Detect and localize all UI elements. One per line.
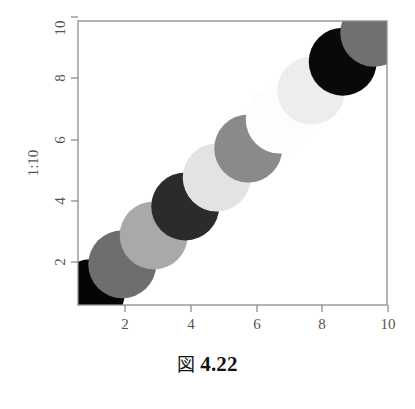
figure-container: 2 4 6 8 10 2 4 6 8 10 Index 1:10 図4.22 <box>0 0 415 409</box>
x-tick-label-6: 6 <box>253 316 261 332</box>
y-tick-label-2: 2 <box>52 258 68 266</box>
caption-figure-number: 4.22 <box>200 352 238 377</box>
x-tick-label-8: 8 <box>318 316 326 332</box>
scatter-plot: 2 4 6 8 10 2 4 6 8 10 Index 1:10 <box>0 0 415 340</box>
x-axis-ticks <box>125 305 388 312</box>
y-tick-label-8: 8 <box>52 74 68 82</box>
data-point-10 <box>340 0 408 67</box>
x-tick-label-4: 4 <box>187 316 195 332</box>
x-axis-tick-labels: 2 4 6 8 10 <box>121 316 395 332</box>
x-tick-label-10: 10 <box>381 316 396 332</box>
x-tick-label-2: 2 <box>121 316 129 332</box>
caption-figure-mark: 図 <box>177 350 195 376</box>
y-axis-ticks <box>71 17 78 262</box>
y-tick-label-4: 4 <box>52 197 68 205</box>
y-axis-title: 1:10 <box>25 150 41 177</box>
y-tick-label-10: 10 <box>52 21 68 36</box>
y-axis-tick-labels: 2 4 6 8 10 <box>52 21 68 266</box>
y-tick-label-6: 6 <box>52 136 68 144</box>
figure-caption: 図4.22 <box>0 350 415 377</box>
